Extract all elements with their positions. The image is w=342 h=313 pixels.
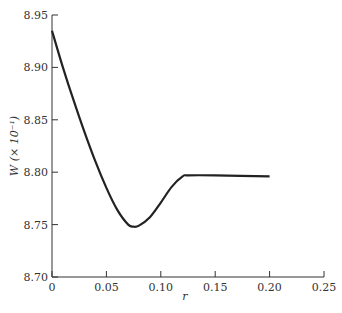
y-ticks: 8.708.758.808.858.908.95: [24, 9, 59, 284]
y-tick-label: 8.75: [24, 219, 49, 232]
x-tick-label: 0.25: [312, 281, 337, 294]
x-tick-label: 0.15: [203, 281, 228, 294]
x-tick-label: 0: [49, 281, 56, 294]
y-tick-label: 8.95: [24, 9, 49, 22]
y-tick-label: 8.90: [24, 61, 49, 74]
y-axis-label: W (× 10⁻¹): [8, 116, 21, 176]
x-tick-label: 0.05: [94, 281, 119, 294]
data-line: [52, 31, 270, 227]
axes: [52, 15, 324, 277]
y-tick-label: 8.70: [24, 271, 49, 284]
line-chart: 8.708.758.808.858.908.95 00.050.100.150.…: [0, 0, 342, 313]
x-tick-label: 0.10: [149, 281, 174, 294]
x-ticks: 00.050.100.150.200.25: [49, 271, 337, 294]
x-tick-label: 0.20: [257, 281, 282, 294]
y-tick-label: 8.80: [24, 166, 49, 179]
y-tick-label: 8.85: [24, 114, 49, 127]
x-axis-label: r: [182, 290, 188, 303]
